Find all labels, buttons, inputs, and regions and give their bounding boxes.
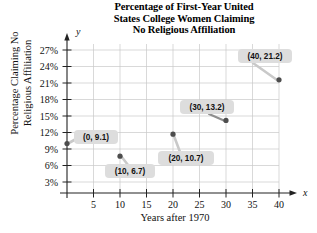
y-axis-letter: y <box>75 26 81 37</box>
callout-label-4: (40, 21.2) <box>247 52 282 61</box>
callout-3: (30, 13.2) <box>180 100 234 114</box>
data-point-4 <box>276 77 281 82</box>
data-point-2 <box>170 132 175 137</box>
chart-figure: Percentage of First-Year United States C… <box>0 0 317 233</box>
plot-area: 3% 6% 9% 12% 15% 18% 21% 24% 27% 5 10 15… <box>0 0 317 233</box>
callout-label-3: (30, 13.2) <box>189 103 224 112</box>
data-point-1 <box>117 154 122 159</box>
y-tick-label-27: 27% <box>40 45 58 56</box>
x-tick-label-15: 15 <box>142 199 152 210</box>
callout-leader-lines <box>68 63 277 165</box>
y-tick-label-9: 9% <box>45 144 58 155</box>
x-axis-letter: x <box>302 187 308 198</box>
y-tick-label-3: 3% <box>45 177 58 188</box>
x-axis-tick-labels: 5 10 15 20 25 30 35 40 <box>91 199 284 210</box>
callout-0: (0, 9.1) <box>74 130 118 144</box>
x-tick-label-40: 40 <box>274 199 284 210</box>
callout-1: (10, 6.7) <box>105 164 155 178</box>
data-point-0 <box>64 141 69 146</box>
callout-2: (20, 10.7) <box>158 151 214 165</box>
callout-label-0: (0, 9.1) <box>83 133 109 142</box>
x-tick-label-25: 25 <box>195 199 205 210</box>
y-tick-label-15: 15% <box>40 111 58 122</box>
x-tick-label-10: 10 <box>115 199 125 210</box>
x-tick-label-35: 35 <box>248 199 258 210</box>
y-tick-label-21: 21% <box>40 78 58 89</box>
y-tick-label-6: 6% <box>45 160 58 171</box>
x-tick-label-20: 20 <box>168 199 178 210</box>
callout-label-1: (10, 6.7) <box>115 167 146 176</box>
x-tick-label-5: 5 <box>91 199 96 210</box>
x-tick-label-30: 30 <box>221 199 231 210</box>
y-tick-label-24: 24% <box>40 61 58 72</box>
y-tick-label-12: 12% <box>40 127 58 138</box>
y-axis-tick-labels: 3% 6% 9% 12% 15% 18% 21% 24% 27% <box>40 45 58 188</box>
callout-label-2: (20, 10.7) <box>168 154 203 163</box>
y-tick-label-18: 18% <box>40 94 58 105</box>
callout-4: (40, 21.2) <box>238 49 292 63</box>
data-point-3 <box>223 118 228 123</box>
